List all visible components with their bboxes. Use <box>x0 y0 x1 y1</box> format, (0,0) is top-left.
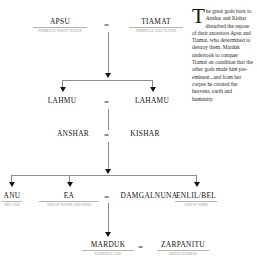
node-enlil-bel-subtitle: God of wind <box>172 203 220 208</box>
node-anu-name: Anu <box>0 192 24 200</box>
caption-dropcap: T <box>192 9 206 24</box>
node-zarpanitu: Zarpanitu Birth goddess <box>152 241 214 256</box>
arrowhead-anu <box>9 182 15 187</box>
genealogy-diagram: Apsu Primeval sweet water = Tiamat Prime… <box>0 0 257 264</box>
connector-gen2-bracket <box>62 80 153 81</box>
marriage-symbol-anshar-kishar: = <box>104 131 109 140</box>
node-tiamat-subtitle: Primeval salt water <box>126 29 186 34</box>
node-tiamat: Tiamat Primeval salt water <box>126 18 186 33</box>
node-kishar-name: Kishar <box>120 130 170 138</box>
node-ea-subtitle: God of water and wind <box>38 203 100 208</box>
node-marduk: Marduk National god <box>78 241 138 256</box>
node-enlil-bel-name: Enlil/Bel <box>172 192 220 200</box>
node-ea: Ea God of water and wind <box>38 192 100 207</box>
arrowhead-enlil <box>194 182 200 187</box>
arrowhead-marduk <box>105 232 111 237</box>
connector-gen2-stem <box>108 109 109 130</box>
connector-gen3-stem <box>108 142 109 172</box>
node-kishar: Kishar <box>120 130 170 138</box>
node-anu-subtitle: Sky god <box>0 203 24 208</box>
arrowhead-lahamu <box>150 87 156 92</box>
node-anu: Anu Sky god <box>0 192 24 207</box>
node-zarpanitu-name: Zarpanitu <box>152 241 214 249</box>
node-lahmu-name: Lahmu <box>36 97 88 105</box>
node-damgalnuna-name: Damgalnuna <box>118 192 180 200</box>
arrowhead-gen3-stem <box>105 169 111 174</box>
node-apsu-name: Apsu <box>30 18 90 26</box>
connector-gen4-bracket <box>11 175 197 176</box>
marriage-symbol-marduk-zarpanitu: = <box>138 243 143 252</box>
node-ea-name: Ea <box>38 192 100 200</box>
node-tiamat-name: Tiamat <box>126 18 186 26</box>
node-zarpanitu-subtitle: Birth goddess <box>152 252 214 257</box>
node-lahmu: Lahmu <box>36 97 88 105</box>
arrowhead-gen1-stem <box>105 73 111 78</box>
caption-block: The great gods born to Anshar and Kishar… <box>192 8 254 103</box>
arrowhead-lahmu <box>60 87 66 92</box>
node-marduk-name: Marduk <box>78 241 138 249</box>
marriage-symbol-ea-damgalnuna: = <box>104 193 109 202</box>
node-anshar-name: Anshar <box>48 130 98 138</box>
node-apsu: Apsu Primeval sweet water <box>30 18 90 33</box>
node-marduk-subtitle: National god <box>78 252 138 257</box>
connector-gen1-stem <box>108 32 109 76</box>
marriage-symbol-apsu-tiamat: = <box>104 21 109 30</box>
marriage-symbol-lahmu-lahamu: = <box>104 98 109 107</box>
node-apsu-subtitle: Primeval sweet water <box>30 29 90 34</box>
node-lahamu: Lahamu <box>126 97 178 105</box>
node-damgalnuna: Damgalnuna <box>118 192 180 200</box>
node-enlil-bel: Enlil/Bel God of wind <box>172 192 220 207</box>
arrowhead-ea <box>67 182 73 187</box>
node-anshar: Anshar <box>48 130 98 138</box>
node-lahamu-name: Lahamu <box>126 97 178 105</box>
